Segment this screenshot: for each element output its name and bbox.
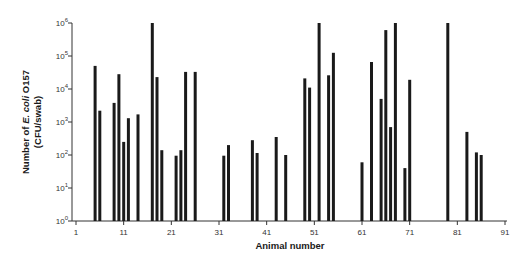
bar-animal-63 — [370, 62, 373, 221]
x-tick-label: 61 — [352, 228, 372, 237]
bar-animal-23 — [179, 150, 182, 221]
y-tick-label: 101 — [44, 182, 68, 193]
bar-animal-17 — [151, 23, 154, 221]
bar-animal-65 — [380, 99, 383, 221]
bar-animal-45 — [284, 155, 287, 221]
bar-animal-61 — [361, 162, 364, 221]
y-tick-label: 100 — [44, 215, 68, 226]
bar-animal-6 — [98, 111, 101, 221]
x-tick-label: 31 — [209, 228, 229, 237]
bar-animal-83 — [465, 132, 468, 221]
bar-animal-39 — [256, 153, 259, 221]
bar-animal-66 — [384, 30, 387, 221]
bar-animal-14 — [137, 114, 140, 221]
x-tick-label: 11 — [114, 228, 134, 237]
bar-animal-43 — [275, 137, 278, 221]
bar-animal-38 — [251, 140, 254, 221]
bar-animal-79 — [446, 23, 449, 221]
y-tick-label: 103 — [44, 116, 68, 127]
bar-animal-67 — [389, 127, 392, 221]
bar-animal-85 — [475, 152, 478, 221]
y-tick-label: 106 — [44, 17, 68, 28]
bar-animal-49 — [303, 78, 306, 221]
y-tick-label: 102 — [44, 149, 68, 160]
bar-chart: Number of E. coli O157 (CFU/swab) Animal… — [0, 0, 528, 264]
bar-animal-68 — [394, 23, 397, 221]
bar-animal-5 — [94, 66, 97, 221]
y-tick-label: 104 — [44, 83, 68, 94]
x-axis-label: Animal number — [240, 240, 340, 251]
x-tick-label: 1 — [66, 228, 86, 237]
bar-animal-19 — [160, 150, 163, 221]
bar-animal-71 — [408, 80, 411, 221]
x-tick-label: 41 — [257, 228, 277, 237]
y-tick-label: 105 — [44, 50, 68, 61]
x-tick-label: 21 — [161, 228, 181, 237]
bar-animal-22 — [175, 156, 178, 221]
bar-animal-33 — [227, 145, 230, 221]
bar-animal-12 — [127, 118, 130, 221]
bar-animal-70 — [403, 168, 406, 221]
bar-animal-52 — [318, 23, 321, 221]
bar-animal-26 — [194, 72, 197, 221]
x-tick-label: 51 — [304, 228, 324, 237]
bar-animal-11 — [122, 142, 125, 221]
bar-animal-55 — [332, 53, 335, 221]
bar-animal-86 — [480, 155, 483, 221]
bar-animal-10 — [117, 74, 120, 221]
bar-animal-50 — [308, 88, 311, 221]
bar-animal-54 — [327, 75, 330, 221]
x-tick-label: 71 — [400, 228, 420, 237]
x-tick-label: 81 — [447, 228, 467, 237]
x-tick-label: 91 — [495, 228, 515, 237]
bar-animal-18 — [156, 77, 159, 221]
bar-animal-32 — [222, 156, 225, 221]
bar-animal-24 — [184, 72, 187, 221]
bar-animal-9 — [113, 103, 116, 221]
plot-area — [0, 0, 528, 264]
